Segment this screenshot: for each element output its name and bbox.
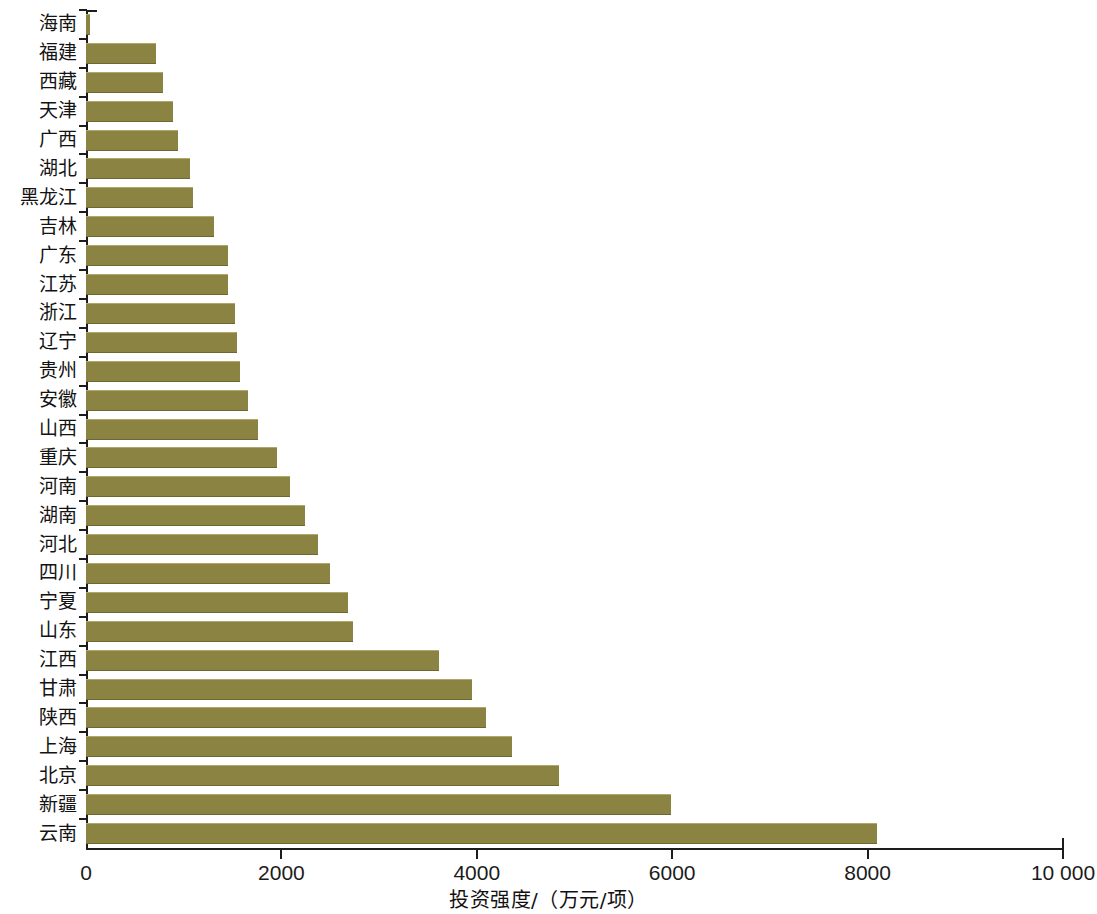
y-axis-label-广西: 广西 [0, 130, 77, 149]
y-axis-label-重庆: 重庆 [0, 448, 77, 467]
bar-fill [86, 476, 290, 497]
bar-江西 [86, 650, 439, 671]
y-tick [79, 471, 87, 473]
bar-海南 [86, 14, 90, 35]
x-axis-label-6000: 6000 [649, 861, 696, 885]
y-axis-label-江西: 江西 [0, 650, 77, 669]
bar-fill [86, 303, 235, 324]
bar-新疆 [86, 794, 671, 815]
bar-fill [86, 679, 472, 700]
bar-fill [86, 332, 237, 353]
bar-辽宁 [86, 332, 237, 353]
bar-fill [86, 216, 214, 237]
y-axis-label-宁夏: 宁夏 [0, 592, 77, 611]
y-tick [79, 674, 87, 676]
x-tick-4000 [476, 850, 478, 859]
bar-fill [86, 43, 156, 64]
y-axis-label-湖北: 湖北 [0, 159, 77, 178]
y-axis-label-贵州: 贵州 [0, 361, 77, 380]
bar-陕西 [86, 707, 486, 728]
bar-西藏 [86, 72, 163, 93]
bar-黑龙江 [86, 187, 193, 208]
bar-贵州 [86, 361, 240, 382]
y-tick [79, 702, 87, 704]
x-axis-label-0: 0 [80, 861, 92, 885]
bar-北京 [86, 765, 559, 786]
y-tick [79, 789, 87, 791]
bar-fill [86, 419, 258, 440]
bar-fill [86, 707, 486, 728]
y-axis-label-云南: 云南 [0, 824, 77, 843]
y-axis-cap [86, 10, 97, 12]
bar-fill [86, 101, 173, 122]
bar-福建 [86, 43, 156, 64]
y-axis-label-西藏: 西藏 [0, 72, 77, 91]
bar-fill [86, 563, 330, 584]
y-axis-label-福建: 福建 [0, 43, 77, 62]
bar-fill [86, 794, 671, 815]
x-tick-8000 [867, 850, 869, 859]
y-tick [79, 529, 87, 531]
y-axis-label-湖南: 湖南 [0, 506, 77, 525]
bar-云南 [86, 823, 877, 844]
bar-山东 [86, 621, 353, 642]
y-axis-label-海南: 海南 [0, 14, 77, 33]
bar-fill [86, 158, 190, 179]
x-tick-6000 [671, 850, 673, 859]
bar-天津 [86, 101, 173, 122]
bar-江苏 [86, 274, 228, 295]
y-tick [79, 356, 87, 358]
y-axis-label-辽宁: 辽宁 [0, 332, 77, 351]
y-tick [79, 298, 87, 300]
y-tick [79, 38, 87, 40]
bar-山西 [86, 419, 258, 440]
bar-fill [86, 592, 348, 613]
y-tick [79, 67, 87, 69]
y-axis-label-安徽: 安徽 [0, 390, 77, 409]
x-axis-title: 投资强度/（万元/项） [0, 889, 1097, 911]
bar-宁夏 [86, 592, 348, 613]
y-axis-label-北京: 北京 [0, 766, 77, 785]
bar-fill [86, 72, 163, 93]
bar-fill [86, 274, 228, 295]
bar-浙江 [86, 303, 235, 324]
y-axis-label-浙江: 浙江 [0, 303, 77, 322]
y-tick [79, 414, 87, 416]
y-axis-label-新疆: 新疆 [0, 795, 77, 814]
y-tick [79, 385, 87, 387]
bar-fill [86, 447, 277, 468]
y-tick [79, 442, 87, 444]
x-axis-label-10000: 10 000 [1031, 861, 1095, 885]
bar-fill [86, 361, 240, 382]
y-tick [79, 327, 87, 329]
bar-fill [86, 621, 353, 642]
y-axis-label-江苏: 江苏 [0, 275, 77, 294]
bar-fill [86, 534, 318, 555]
bar-fill [86, 245, 228, 266]
y-axis-label-四川: 四川 [0, 563, 77, 582]
y-tick [79, 500, 87, 502]
bar-上海 [86, 736, 512, 757]
bar-fill [86, 823, 877, 844]
y-tick [79, 818, 87, 820]
x-axis-label-2000: 2000 [258, 861, 305, 885]
y-axis-label-上海: 上海 [0, 737, 77, 756]
y-axis-label-黑龙江: 黑龙江 [0, 188, 77, 207]
bar-湖南 [86, 505, 305, 526]
x-axis-label-8000: 8000 [844, 861, 891, 885]
bar-chart: 海南福建西藏天津广西湖北黑龙江吉林广东江苏浙江辽宁贵州安徽山西重庆河南湖南河北四… [0, 0, 1097, 914]
y-tick [79, 96, 87, 98]
x-tick-2000 [280, 850, 282, 859]
y-axis-label-河北: 河北 [0, 535, 77, 554]
y-axis-label-吉林: 吉林 [0, 217, 77, 236]
y-tick [79, 182, 87, 184]
bar-广东 [86, 245, 228, 266]
bar-fill [86, 505, 305, 526]
y-tick [79, 153, 87, 155]
bar-安徽 [86, 390, 248, 411]
y-tick [79, 211, 87, 213]
y-axis-label-广东: 广东 [0, 246, 77, 265]
x-axis-cap [1062, 838, 1064, 850]
y-tick [79, 125, 87, 127]
y-axis-label-山东: 山东 [0, 621, 77, 640]
